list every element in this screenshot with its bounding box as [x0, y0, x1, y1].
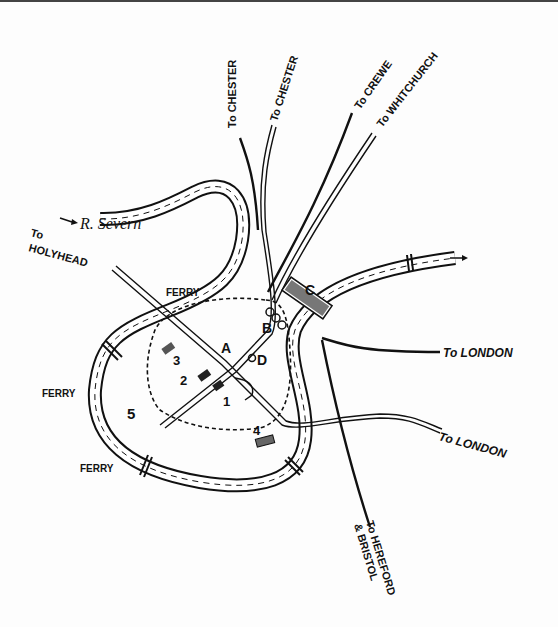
point-c: C: [305, 282, 315, 298]
ferry-label-west: FERRY: [42, 388, 76, 399]
ferry-label-north: FERRY: [166, 287, 200, 298]
river-label: R. Severn: [79, 215, 141, 232]
point-b: B: [262, 320, 272, 336]
marker-1: 1: [223, 394, 230, 409]
label-to-london-east: To LONDON: [443, 346, 513, 360]
marker-2: 2: [180, 373, 187, 388]
label-to-holyhead-1: To: [29, 226, 45, 241]
marker-4: 4: [253, 423, 261, 438]
point-d: D: [257, 352, 267, 368]
label-to-holyhead-2: HOLYHEAD: [27, 241, 89, 268]
ferry-label-south: FERRY: [80, 463, 114, 474]
point-a: A: [221, 340, 231, 356]
label-to-chester-2: To CHESTER: [267, 54, 300, 123]
town-boundary: [147, 298, 290, 429]
railways: [112, 125, 442, 433]
severn-railway-map: R. Severn To CHESTER To CHESTER To CREWE…: [0, 0, 558, 627]
label-to-chester-1: To CHESTER: [226, 60, 238, 128]
marker-5: 5: [127, 405, 135, 422]
marker-3: 3: [173, 353, 180, 368]
map-drawing: R. Severn To CHESTER To CHESTER To CREWE…: [0, 0, 558, 627]
label-to-london-se: To LONDON: [437, 429, 508, 461]
river-severn: [95, 187, 455, 486]
